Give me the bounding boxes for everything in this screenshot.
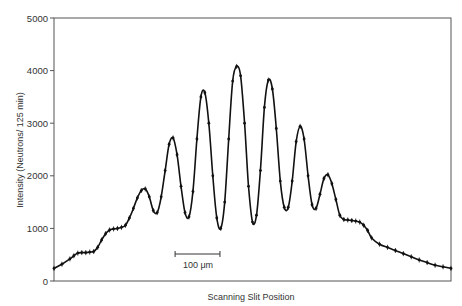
scale-bar-label: 100 μm <box>183 260 213 270</box>
y-tick-label: 5000 <box>27 13 48 24</box>
data-point-markers <box>53 64 453 271</box>
y-tick-label: 3000 <box>27 118 48 129</box>
y-tick-label: 0 <box>43 276 48 287</box>
plot-frame <box>54 18 451 281</box>
y-tick-label: 4000 <box>27 65 48 76</box>
intensity-curve <box>54 66 451 268</box>
x-axis-label: Scanning Slit Position <box>207 292 294 302</box>
y-axis-label: Intensity (Neutrons/ 125 min) <box>15 92 25 208</box>
scale-bar: 100 μm <box>175 251 220 270</box>
y-tick-label: 1000 <box>27 223 48 234</box>
y-axis-ticks: 010002000300040005000 <box>27 13 54 287</box>
intensity-chart: 010002000300040005000 Intensity (Neutron… <box>0 0 462 306</box>
y-tick-label: 2000 <box>27 170 48 181</box>
